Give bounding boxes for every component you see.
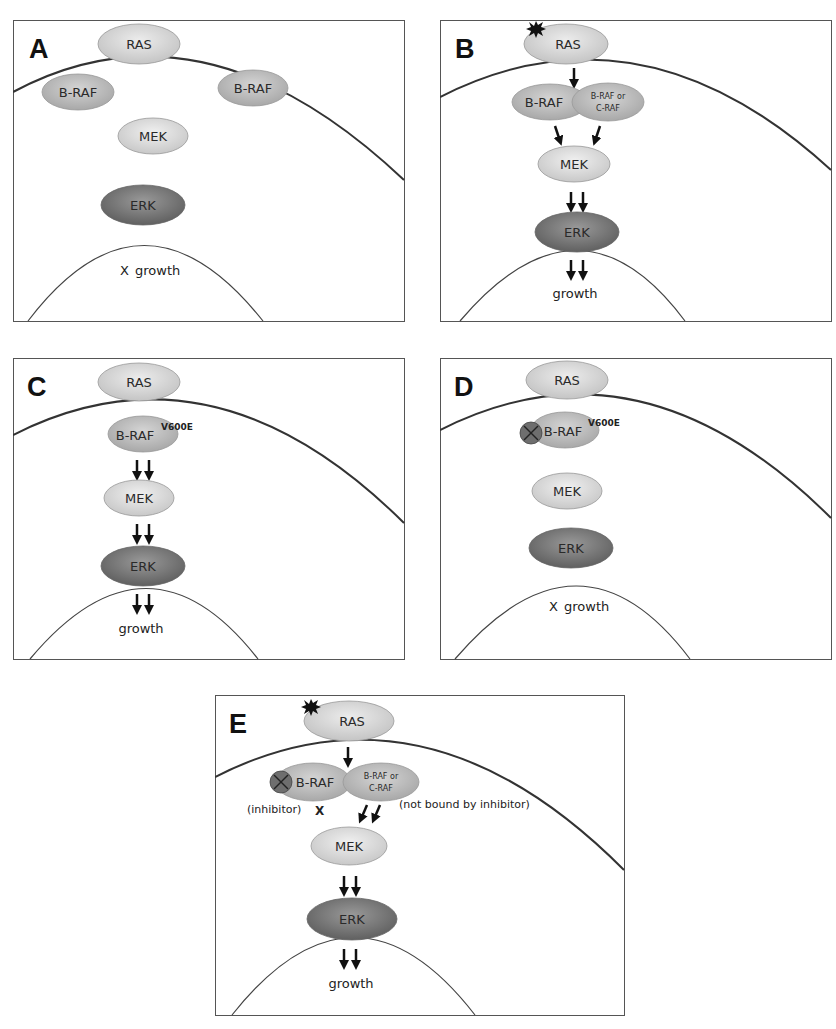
panel-letter: A xyxy=(29,34,49,64)
mek-protein: MEK xyxy=(311,827,387,865)
panel-b: B RAS B-RAF B-RAF or C-RAF MEK ERK xyxy=(440,20,832,322)
svg-text:ERK: ERK xyxy=(130,198,156,213)
svg-text:MEK: MEK xyxy=(560,157,588,172)
svg-text:B-RAF: B-RAF xyxy=(116,428,155,443)
svg-text:B-RAF: B-RAF xyxy=(234,81,273,96)
panel-frame xyxy=(441,359,832,660)
mutation-label: V600E xyxy=(161,422,193,432)
panel-frame xyxy=(14,21,405,322)
svg-text:RAS: RAS xyxy=(555,37,581,52)
mek-protein: MEK xyxy=(104,480,174,516)
growth-label: growth xyxy=(564,599,609,614)
svg-text:RAS: RAS xyxy=(554,373,580,388)
inhibitor-icon xyxy=(270,771,292,793)
svg-text:RAS: RAS xyxy=(126,375,152,390)
erk-protein: ERK xyxy=(307,898,397,940)
svg-text:B-RAF: B-RAF xyxy=(296,775,335,790)
svg-text:RAS: RAS xyxy=(126,37,152,52)
braf-protein-right: B-RAF xyxy=(218,70,288,106)
not-bound-label: (not bound by inhibitor) xyxy=(399,798,530,811)
svg-text:MEK: MEK xyxy=(125,491,153,506)
panel-frame xyxy=(441,21,832,322)
svg-text:MEK: MEK xyxy=(553,484,581,499)
mek-protein: MEK xyxy=(538,146,610,182)
erk-protein: ERK xyxy=(535,212,619,252)
mek-protein: MEK xyxy=(532,473,602,509)
panel-letter: B xyxy=(455,34,475,64)
mutation-label: V600E xyxy=(588,418,620,428)
svg-text:MEK: MEK xyxy=(139,129,167,144)
svg-text:B-RAF or: B-RAF or xyxy=(591,92,626,101)
growth-label: growth xyxy=(552,286,597,301)
erk-protein: ERK xyxy=(101,546,185,586)
svg-text:ERK: ERK xyxy=(130,559,156,574)
svg-text:B-RAF or: B-RAF or xyxy=(364,772,399,781)
panel-letter: E xyxy=(229,709,247,739)
svg-text:ERK: ERK xyxy=(339,912,365,927)
growth-label: growth xyxy=(328,976,373,991)
no-growth-mark: X xyxy=(120,263,129,278)
panel-d: D RAS B-RAF V600E MEK ERK X growth xyxy=(440,358,832,660)
mek-protein: MEK xyxy=(118,118,188,154)
panel-letter: C xyxy=(27,372,47,402)
ras-protein: RAS xyxy=(526,361,608,399)
inhibitor-label: (inhibitor) xyxy=(247,803,301,816)
svg-text:B-RAF: B-RAF xyxy=(544,424,583,439)
panel-a: A RAS B-RAF B-RAF MEK ERK X growth xyxy=(13,20,405,322)
svg-text:C-RAF: C-RAF xyxy=(369,784,393,793)
panel-frame xyxy=(216,696,625,1016)
svg-text:B-RAF: B-RAF xyxy=(59,85,98,100)
svg-text:ERK: ERK xyxy=(558,541,584,556)
ras-protein: RAS xyxy=(98,363,180,401)
svg-text:B-RAF: B-RAF xyxy=(525,95,564,110)
blocked-mark: X xyxy=(315,804,325,818)
braf-or-craf-protein: B-RAF or C-RAF xyxy=(343,763,419,801)
erk-protein: ERK xyxy=(529,528,613,568)
svg-text:RAS: RAS xyxy=(339,714,365,729)
erk-protein: ERK xyxy=(101,185,185,225)
growth-label: growth xyxy=(135,263,180,278)
panel-c: C RAS B-RAF V600E MEK ERK growth xyxy=(13,358,405,660)
svg-text:ERK: ERK xyxy=(564,225,590,240)
braf-or-craf-protein: B-RAF or C-RAF xyxy=(572,83,644,121)
svg-text:MEK: MEK xyxy=(335,839,363,854)
inhibitor-icon xyxy=(520,422,542,444)
no-growth-mark: X xyxy=(549,599,558,614)
panel-frame xyxy=(14,359,405,660)
svg-text:C-RAF: C-RAF xyxy=(596,104,620,113)
panel-e: E RAS B-RAF B-RAF or C-RAF (inhibitor) X… xyxy=(215,695,625,1020)
growth-label: growth xyxy=(118,621,163,636)
ras-protein: RAS xyxy=(98,24,180,64)
panel-letter: D xyxy=(454,372,474,402)
braf-protein-left: B-RAF xyxy=(42,74,114,110)
